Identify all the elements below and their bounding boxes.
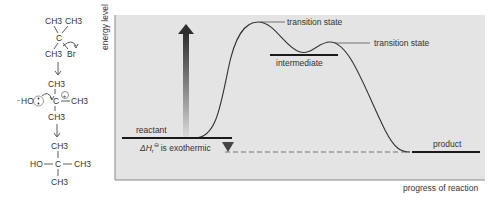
transition-state-2-label: transition state [374, 38, 430, 48]
y-axis-label: energy level [100, 4, 110, 50]
product-label: product [433, 139, 462, 149]
reactant-label: reactant [136, 125, 167, 135]
energy-diagram-svg: energy level transition state transition… [0, 0, 495, 208]
energy-diagram: energy level transition state transition… [0, 0, 495, 208]
intermediate-label: intermediate [276, 58, 323, 68]
x-axis-label: progress of reaction [403, 183, 478, 193]
transition-state-1-label: transition state [287, 17, 343, 27]
delta-h-label: ΔHr⊖is exothermic [139, 142, 212, 154]
plot-area [115, 15, 485, 180]
